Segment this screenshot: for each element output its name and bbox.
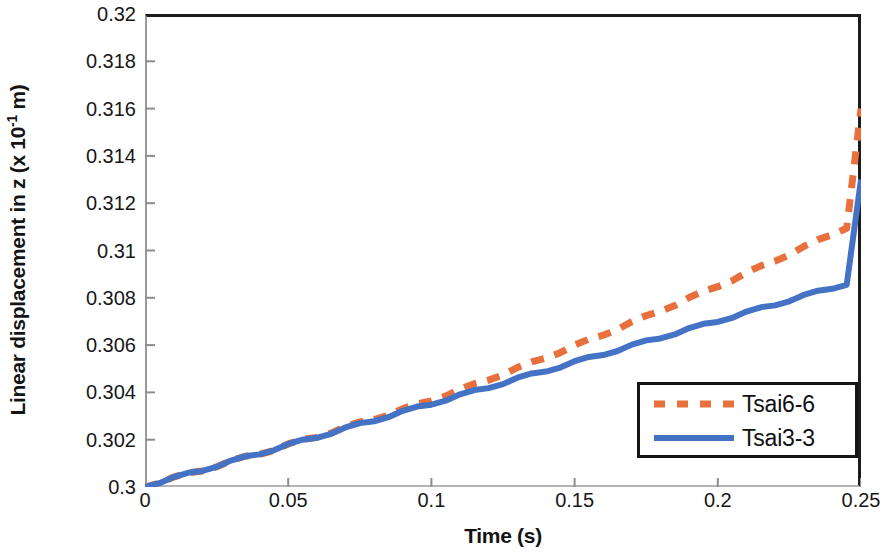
x-tick-label: 0.05: [269, 489, 308, 512]
y-tick-label: 0.304: [86, 381, 136, 404]
chart-figure: Linear displacement in z (x 10-1 m) Time…: [0, 0, 889, 560]
x-axis-title: Time (s): [145, 524, 861, 548]
y-tick-label: 0.32: [97, 3, 136, 26]
legend-swatch-solid-icon: [652, 429, 736, 447]
legend-swatch-dashed-icon: [652, 395, 736, 413]
x-tick-label: 0.25: [842, 489, 881, 512]
y-tick-label: 0.318: [86, 50, 136, 73]
legend-entry-tsai3-3: Tsai3-3: [640, 419, 855, 457]
x-tick-label: 0.2: [704, 489, 732, 512]
y-tick-label: 0.306: [86, 334, 136, 357]
x-tick-label: 0.1: [417, 489, 445, 512]
x-tick-label: 0: [139, 489, 150, 512]
y-tick-label: 0.312: [86, 192, 136, 215]
y-tick-label: 0.308: [86, 286, 136, 309]
y-tick-label: 0.302: [86, 428, 136, 451]
legend-entry-tsai6-6: Tsai6-6: [640, 385, 855, 423]
y-tick-label: 0.314: [86, 144, 136, 167]
y-tick-label: 0.316: [86, 97, 136, 120]
y-axis-title: Linear displacement in z (x 10-1 m): [0, 0, 36, 500]
legend-label-tsai3-3: Tsai3-3: [742, 425, 815, 452]
y-tick-label: 0.3: [108, 476, 136, 499]
y-tick-label: 0.31: [97, 239, 136, 262]
x-tick-label: 0.15: [555, 489, 594, 512]
chart-legend: Tsai6-6 Tsai3-3: [637, 382, 858, 458]
legend-label-tsai6-6: Tsai6-6: [742, 391, 815, 418]
